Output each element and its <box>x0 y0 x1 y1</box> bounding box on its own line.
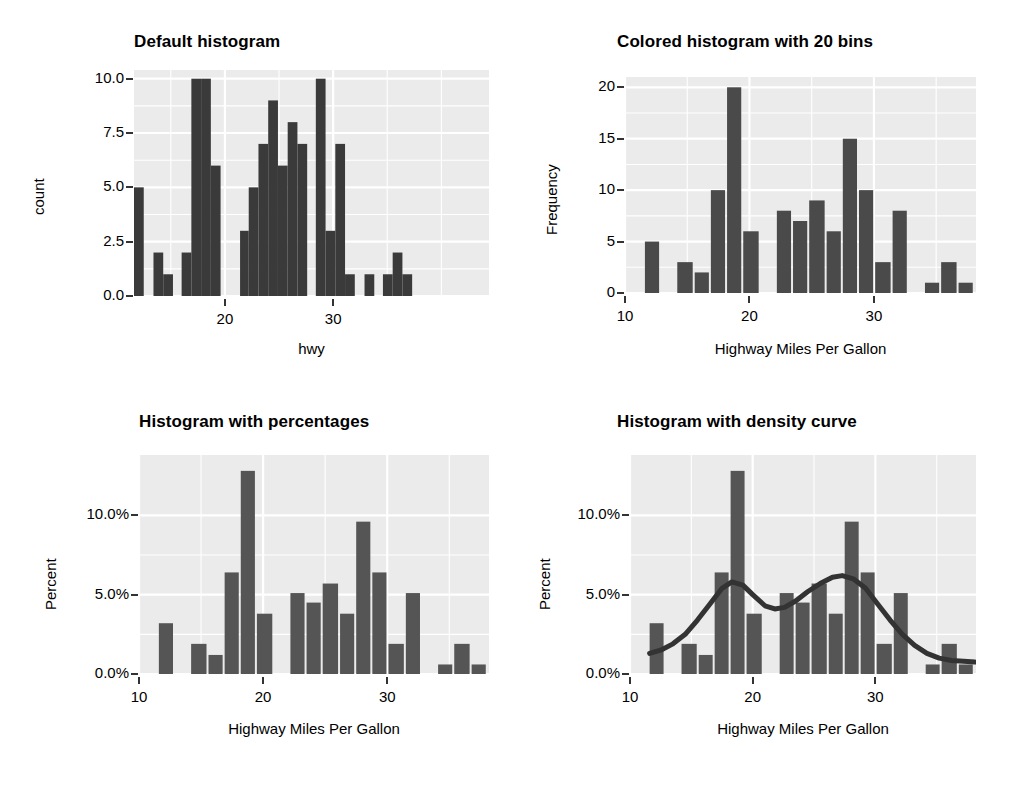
histogram-bar <box>941 262 956 293</box>
histogram-bar <box>159 623 173 674</box>
histogram-bar <box>191 79 201 296</box>
y-tick-mark <box>622 673 629 675</box>
histogram-bar <box>372 572 386 674</box>
histogram-bar <box>268 100 278 296</box>
histogram-bar <box>406 593 420 674</box>
y-tick-label: 0.0 <box>56 286 124 303</box>
x-tick-mark <box>873 296 875 303</box>
x-tick-mark <box>752 677 754 684</box>
histogram-bar <box>388 644 403 674</box>
histogram-bar <box>843 139 857 293</box>
x-axis-title-histogram-with-percentages: Highway Miles Per Gallon <box>139 720 489 737</box>
histogram-bar <box>893 211 907 293</box>
histogram-bar <box>926 664 940 674</box>
histogram-bar <box>472 664 486 674</box>
histogram-bar <box>297 144 307 296</box>
y-axis-title-default-histogram: count <box>30 178 47 215</box>
y-axis-title-histogram-with-density-curve: Percent <box>536 558 553 610</box>
y-tick-label: 10.0% <box>552 505 620 522</box>
y-tick-label: 5.0% <box>552 585 620 602</box>
x-tick-mark <box>138 677 140 684</box>
histogram-bar <box>290 593 304 674</box>
x-tick-mark <box>332 299 334 306</box>
y-tick-mark <box>131 594 138 596</box>
histogram-bar <box>356 522 370 674</box>
histogram-bar <box>365 274 375 296</box>
histogram-bar <box>743 231 758 293</box>
histogram-bar <box>727 87 741 293</box>
histogram-bar <box>335 144 345 296</box>
histogram-bar <box>316 79 326 296</box>
y-tick-mark <box>126 186 133 188</box>
histogram-bar <box>307 603 321 674</box>
plot-title-default-histogram: Default histogram <box>134 32 280 52</box>
x-axis-title-histogram-with-density-curve: Highway Miles Per Gallon <box>630 720 976 737</box>
histogram-bar <box>163 274 173 296</box>
figure-canvas: Default histogramcounthwy0.02.55.07.510.… <box>0 0 1023 786</box>
y-tick-label: 10.0 <box>56 69 124 86</box>
y-tick-label: 10.0% <box>61 505 129 522</box>
histogram-bar <box>383 274 393 296</box>
x-tick-label: 30 <box>347 688 427 705</box>
histogram-bar <box>258 144 268 296</box>
plot-title-colored-histogram-20-bins: Colored histogram with 20 bins <box>617 32 873 52</box>
y-axis-title-histogram-with-percentages: Percent <box>42 558 59 610</box>
histogram-bar <box>153 253 163 296</box>
histogram-bar <box>877 644 892 674</box>
histogram-bar <box>875 262 890 293</box>
plot-panel-default-histogram <box>134 70 489 296</box>
plot-panel-histogram-with-percentages <box>139 455 489 674</box>
x-tick-mark <box>624 296 626 303</box>
histogram-bar <box>845 522 859 674</box>
histogram-bar <box>925 283 939 293</box>
y-tick-mark <box>622 514 629 516</box>
x-tick-mark <box>386 677 388 684</box>
y-tick-label: 10 <box>547 180 615 197</box>
x-tick-label: 30 <box>834 307 914 324</box>
x-tick-label: 10 <box>590 688 670 705</box>
histogram-bar <box>340 614 354 674</box>
histogram-bar <box>393 253 403 296</box>
histogram-bar <box>829 614 843 674</box>
y-tick-label: 7.5 <box>56 123 124 140</box>
x-tick-label: 30 <box>835 688 915 705</box>
y-tick-label: 15 <box>547 129 615 146</box>
x-tick-label: 20 <box>709 307 789 324</box>
histogram-bar <box>827 231 841 293</box>
histogram-bar <box>711 190 725 293</box>
histogram-bar <box>731 471 745 674</box>
y-tick-mark <box>617 86 624 88</box>
histogram-bar <box>182 253 192 296</box>
x-tick-mark <box>629 677 631 684</box>
x-tick-mark <box>874 677 876 684</box>
histogram-bar <box>288 122 298 296</box>
histogram-bar <box>438 664 452 674</box>
x-tick-label: 10 <box>585 307 665 324</box>
histogram-bar <box>695 272 709 293</box>
histogram-bar <box>257 614 272 674</box>
histogram-bar <box>859 190 873 293</box>
histogram-bar <box>682 644 697 674</box>
x-tick-label: 20 <box>185 310 265 327</box>
x-tick-mark <box>224 299 226 306</box>
y-tick-mark <box>617 241 624 243</box>
x-tick-mark <box>748 296 750 303</box>
y-axis-title-colored-histogram-20-bins: Frequency <box>543 164 560 235</box>
histogram-bar <box>240 231 249 296</box>
histogram-bar <box>278 166 288 296</box>
histogram-bar <box>326 231 336 296</box>
histogram-bar <box>454 644 469 674</box>
y-tick-label: 0.0% <box>552 664 620 681</box>
y-tick-mark <box>126 295 133 297</box>
plot-panel-histogram-with-density-curve <box>630 455 976 674</box>
x-tick-label: 20 <box>713 688 793 705</box>
histogram-bar <box>241 471 255 674</box>
histogram-bar <box>959 283 973 293</box>
y-tick-mark <box>126 241 133 243</box>
y-tick-mark <box>126 132 133 134</box>
histogram-bar <box>699 655 713 674</box>
histogram-bar <box>959 664 973 674</box>
histogram-bar <box>201 79 211 296</box>
y-tick-label: 2.5 <box>56 232 124 249</box>
y-tick-mark <box>617 292 624 294</box>
